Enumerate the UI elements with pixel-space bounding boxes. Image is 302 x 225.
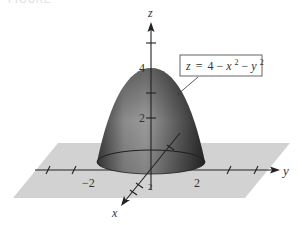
y-tick-label-2: 2 (194, 176, 200, 190)
x-axis-label: x (111, 206, 118, 220)
y-axis-label: y (281, 163, 289, 178)
z-axis-label: z (147, 6, 153, 20)
callout-leader-line (177, 77, 198, 95)
z-tick-label-4: 4 (139, 61, 145, 75)
paraboloid-diagram: 4 2 −2 2 2 z y x z = 4 − x 2 − y 2 (0, 0, 302, 225)
z-tick-label-2: 2 (139, 111, 145, 125)
x-tick-label-2: 2 (148, 182, 153, 192)
y-tick-label-neg2: −2 (82, 176, 95, 190)
